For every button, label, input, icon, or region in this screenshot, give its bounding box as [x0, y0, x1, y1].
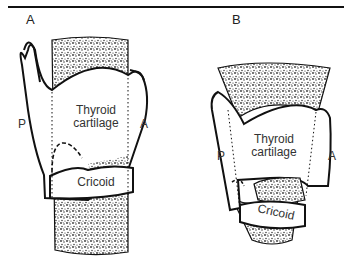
- panel-a-cricoid-label: Cricoid: [66, 176, 126, 189]
- panel-a-label: A: [26, 12, 35, 27]
- panel-b-thyroid-line2: cartilage: [242, 146, 306, 159]
- panel-b-posterior-label: P: [217, 150, 225, 163]
- panel-a-thyroid-line2: cartilage: [66, 117, 126, 130]
- panel-a-anterior-label: A: [140, 118, 148, 131]
- panel-b-anterior-label: A: [328, 150, 336, 163]
- panel-b-thyroid-label: Thyroid cartilage: [242, 133, 306, 159]
- panel-a-thyroid-label: Thyroid cartilage: [66, 104, 126, 130]
- panel-b-label: B: [232, 12, 241, 27]
- panel-a-posterior-label: P: [18, 118, 26, 131]
- panel-a-drawing: [21, 37, 148, 255]
